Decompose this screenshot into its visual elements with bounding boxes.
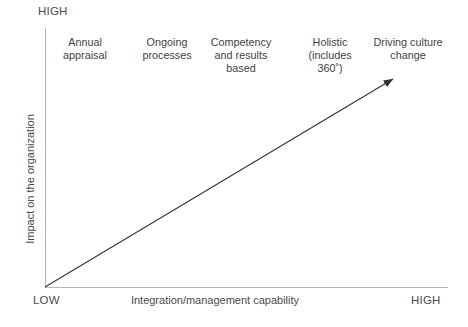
stage-label-line: appraisal: [54, 49, 116, 62]
y-axis-high-label: HIGH: [38, 5, 68, 17]
y-axis-title: Impact on the organization: [24, 99, 36, 259]
trend-arrow-line: [45, 79, 393, 287]
x-axis-title: Integration/management capability: [45, 294, 385, 306]
stage-label-line: Competency: [196, 36, 286, 49]
x-axis-line: [45, 287, 448, 288]
stage-label-holistic-360: Holistic (includes 360˚): [297, 36, 363, 76]
stage-label-line: Holistic: [297, 36, 363, 49]
stage-label-ongoing-processes: Ongoing processes: [134, 36, 200, 62]
stage-label-line: change: [360, 49, 456, 62]
stage-label-line: and results: [196, 49, 286, 62]
stage-label-annual-appraisal: Annual appraisal: [54, 36, 116, 62]
stage-label-competency-results-based: Competency and results based: [196, 36, 286, 76]
y-axis-line: [45, 28, 46, 287]
maturity-diagram: HIGH LOW HIGH Integration/management cap…: [0, 0, 468, 327]
stage-label-line: based: [196, 62, 286, 75]
stage-label-line: (includes: [297, 49, 363, 62]
stage-label-line: 360˚): [297, 62, 363, 75]
stage-label-line: Ongoing: [134, 36, 200, 49]
stage-label-driving-culture-change: Driving culture change: [360, 36, 456, 62]
stage-label-line: Driving culture: [360, 36, 456, 49]
stage-label-line: processes: [134, 49, 200, 62]
x-axis-high-label: HIGH: [411, 294, 441, 306]
stage-label-line: Annual: [54, 36, 116, 49]
